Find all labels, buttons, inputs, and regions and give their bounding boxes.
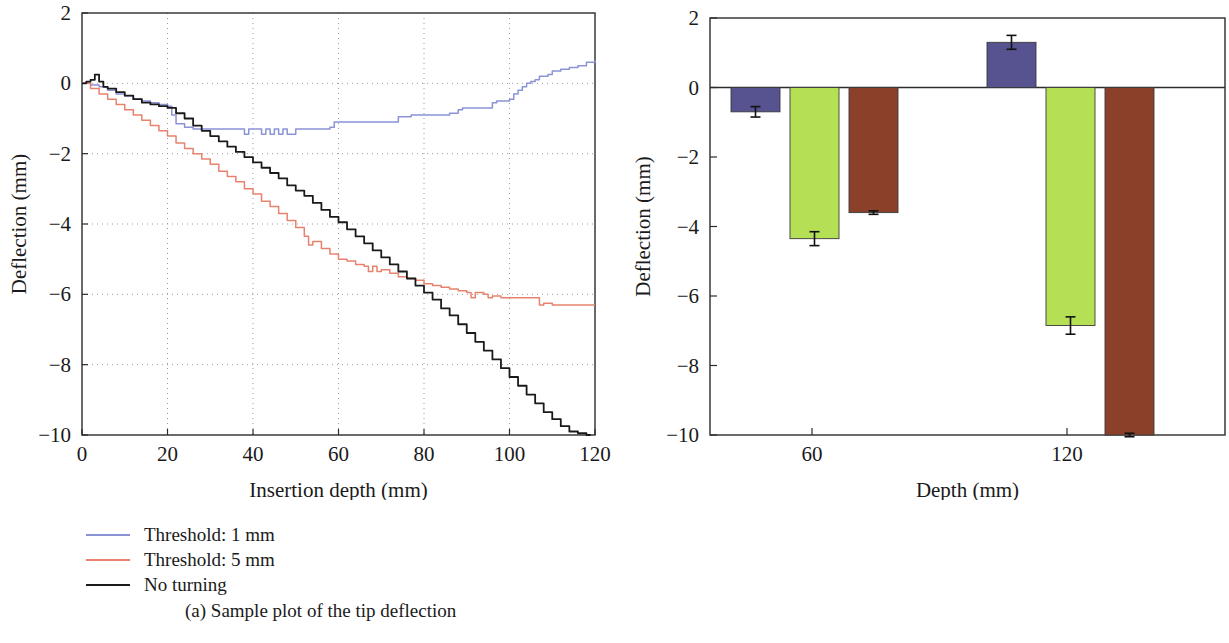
legend-item: Threshold: 1 mm	[86, 522, 275, 547]
svg-text:60: 60	[802, 442, 823, 466]
svg-text:Deflection (mm): Deflection (mm)	[631, 156, 655, 297]
legend-label-threshold-5mm: Threshold: 5 mm	[144, 547, 275, 572]
svg-text:40: 40	[243, 442, 264, 466]
svg-text:Depth (mm): Depth (mm)	[916, 478, 1019, 500]
panel-a-line-chart: 02040608010012020−2−4−6−8−10Insertion de…	[0, 0, 620, 643]
svg-text:Deflection (mm): Deflection (mm)	[7, 154, 31, 295]
legend-line-swatch-no-turning	[86, 584, 130, 586]
legend-line-swatch-threshold-1mm	[86, 534, 130, 536]
bar-chart-svg: 20−2−4−6−8−1060120Depth (mm)Deflection (…	[620, 0, 1229, 500]
svg-text:−2: −2	[49, 142, 71, 166]
svg-text:0: 0	[61, 71, 72, 95]
svg-text:−8: −8	[677, 354, 699, 378]
legend-panel-a: Threshold: 1 mm Threshold: 5 mm No turni…	[86, 522, 275, 597]
svg-text:−4: −4	[677, 215, 700, 239]
svg-text:2: 2	[689, 6, 700, 30]
legend-line-swatch-threshold-5mm	[86, 559, 130, 561]
legend-item: No turning	[86, 572, 275, 597]
svg-text:−10: −10	[38, 423, 71, 447]
svg-text:0: 0	[77, 442, 88, 466]
svg-text:−6: −6	[677, 284, 699, 308]
svg-text:20: 20	[157, 442, 178, 466]
legend-label-no-turning: No turning	[144, 572, 227, 597]
svg-text:−2: −2	[677, 145, 699, 169]
svg-text:−8: −8	[49, 353, 71, 377]
svg-text:60: 60	[328, 442, 349, 466]
svg-text:100: 100	[494, 442, 526, 466]
svg-text:Insertion depth (mm): Insertion depth (mm)	[249, 478, 427, 500]
svg-text:2: 2	[61, 1, 72, 25]
svg-text:−6: −6	[49, 282, 71, 306]
legend-item: Threshold: 5 mm	[86, 547, 275, 572]
svg-text:−10: −10	[666, 423, 699, 447]
svg-text:120: 120	[579, 442, 611, 466]
svg-text:120: 120	[1051, 442, 1083, 466]
svg-text:−4: −4	[49, 212, 72, 236]
svg-text:0: 0	[689, 76, 700, 100]
panel-b-bar-chart: 20−2−4−6−8−1060120Depth (mm)Deflection (…	[620, 0, 1229, 643]
panel-a-caption: (a) Sample plot of the tip deflection	[185, 600, 456, 622]
figure-container: 02040608010012020−2−4−6−8−10Insertion de…	[0, 0, 1229, 643]
line-chart-svg: 02040608010012020−2−4−6−8−10Insertion de…	[0, 0, 620, 500]
legend-label-threshold-1mm: Threshold: 1 mm	[144, 522, 275, 547]
svg-text:80: 80	[414, 442, 435, 466]
